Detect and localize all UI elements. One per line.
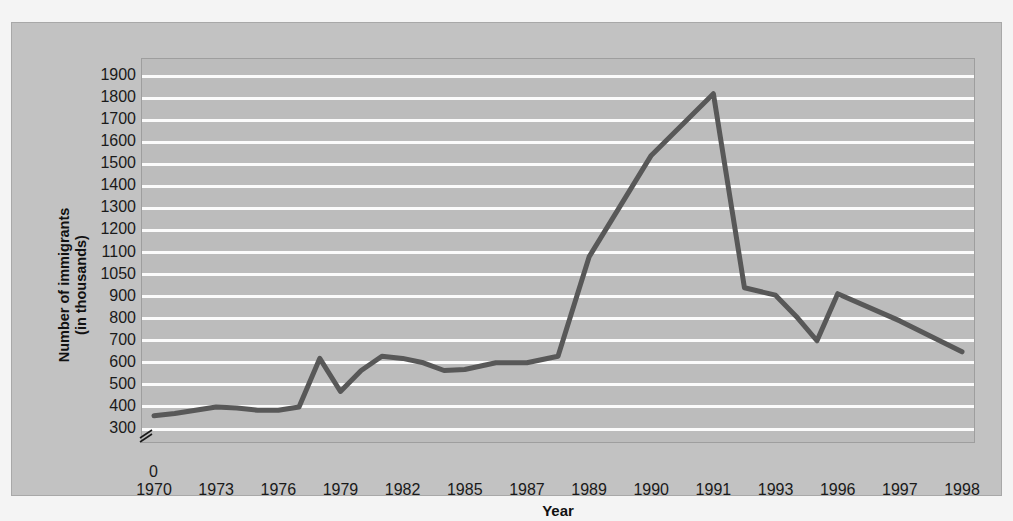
x-axis-title: Year — [141, 502, 975, 519]
x-tick-label: 1985 — [430, 481, 500, 499]
y-tick-label: 1900 — [78, 67, 136, 83]
figure: 1900180017001600150014001300120011001050… — [0, 0, 1013, 521]
x-tick-label: 1998 — [927, 481, 997, 499]
y-tick-label: 1700 — [78, 111, 136, 127]
y-axis-title-line-2: (in thousands) — [73, 155, 90, 415]
x-tick-label: 1991 — [678, 481, 748, 499]
x-tick-label: 1987 — [492, 481, 562, 499]
x-tick-label: 1979 — [305, 481, 375, 499]
x-tick-label: 1996 — [803, 481, 873, 499]
chart-panel: 1900180017001600150014001300120011001050… — [11, 22, 1002, 496]
y-axis-title: Number of immigrants(in thousands) — [56, 155, 90, 415]
data-series-layer — [141, 58, 975, 443]
series-line-immigrants — [154, 94, 962, 416]
x-tick-label: 1990 — [616, 481, 686, 499]
x-tick-label: 1970 — [119, 481, 189, 499]
y-axis-origin-label: 0 — [102, 463, 158, 481]
x-tick-label: 1982 — [368, 481, 438, 499]
y-tick-label: 1800 — [78, 89, 136, 105]
x-tick-label: 1993 — [741, 481, 811, 499]
y-axis-title-line-1: Number of immigrants — [56, 155, 73, 415]
x-tick-label: 1989 — [554, 481, 624, 499]
y-axis-title-wrapper: Number of immigrants(in thousands) — [30, 58, 70, 443]
y-tick-label: 1600 — [78, 133, 136, 149]
x-axis-tick-labels: 1970197319761979198219851987198919901991… — [141, 481, 975, 503]
x-tick-label: 1976 — [243, 481, 313, 499]
x-tick-label: 1997 — [865, 481, 935, 499]
y-tick-label: 300 — [78, 420, 136, 436]
x-tick-label: 1973 — [181, 481, 251, 499]
